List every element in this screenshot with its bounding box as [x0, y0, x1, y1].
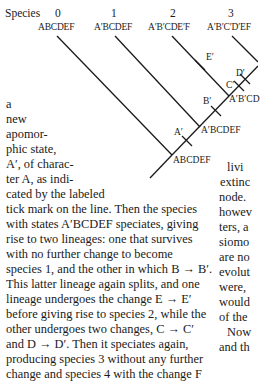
species-states-2: A′B′CDE′F [148, 22, 190, 32]
body-text-line: apomor- [6, 127, 48, 142]
body-text-line: other undergoes two changes, C → C′ [6, 322, 194, 337]
body-text-line: change and species 4 with the change F [6, 367, 202, 382]
right-text-line: of the [219, 310, 248, 325]
body-text-line: This latter lineage again splits, and on… [6, 277, 200, 292]
right-text-line: are no [219, 250, 250, 265]
body-text-line: with no further change to become [6, 247, 173, 262]
species-number-3: 3 [228, 7, 234, 19]
body-text-line: producing species 3 without any further [6, 352, 203, 367]
body-text-line: and D → D′. Then it speciates again, [6, 337, 188, 352]
right-text-line: siomo [219, 235, 249, 250]
body-text-line: ter A, as indi- [6, 172, 73, 187]
tick-label-c: C′ [226, 80, 234, 90]
right-text-line: Now [227, 325, 251, 340]
species-number-1: 1 [111, 7, 117, 19]
right-text-line: would [219, 295, 250, 310]
right-text-line: were, [219, 280, 246, 295]
body-text-line: species 1, and the other in which B → B′… [6, 262, 212, 277]
right-text-line: node. [219, 190, 246, 205]
node-label-root: ABCDEF [173, 155, 210, 165]
species-states-3: A′B′C′D′EF [207, 22, 251, 32]
right-text-line: and th [219, 340, 250, 355]
right-text-line: extinc [220, 175, 250, 190]
species-header: Species [5, 7, 40, 19]
species-number-2: 2 [170, 7, 176, 19]
body-text-line: lineage undergoes the change E → E′ [6, 292, 192, 307]
body-text-line: A′, of charac- [6, 157, 74, 172]
body-text-line: cated by the labeled [6, 187, 105, 202]
species-states-0: ABCDEF [38, 22, 74, 32]
tick-label-b: B′ [203, 96, 211, 106]
tick-label-a: A′ [174, 127, 183, 137]
node-label-n1: A′BCDEF [201, 125, 241, 135]
tick-label-d: D′ [236, 68, 245, 78]
species-number-0: 0 [55, 7, 61, 19]
body-text-line: rise to two lineages: one that survives [6, 232, 193, 247]
right-text-line: ters, a [219, 220, 249, 235]
species-states-1: A′BCDEF [94, 22, 132, 32]
body-text-line: before giving rise to species 2, while t… [6, 307, 206, 322]
right-text-line: evolut [219, 265, 250, 280]
node-label-n2: A′B′CD [229, 94, 260, 104]
body-text-line: new [6, 112, 27, 127]
body-text-line: phic state, [6, 142, 56, 157]
body-text-line: with states A′BCDEF speciates, giving [6, 217, 198, 232]
body-text-line: a [6, 97, 12, 112]
right-text-line: howev [219, 205, 252, 220]
tick-label-e: E′ [206, 52, 214, 62]
right-text-line: livi [227, 160, 244, 175]
body-text-line: tick mark on the line. Then the species [6, 202, 197, 217]
